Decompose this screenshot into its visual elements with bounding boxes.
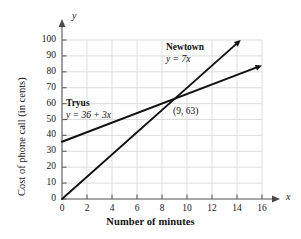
- y-tick-label: 90: [22, 51, 56, 61]
- x-tick-label: 4: [100, 204, 124, 214]
- x-axis-symbol: x: [286, 191, 290, 202]
- intersection-point-label: (9, 63): [173, 106, 198, 116]
- series-equation-newtown: y = 7x: [166, 54, 204, 66]
- y-tick-label: 10: [22, 178, 56, 188]
- x-tick-label: 0: [50, 204, 74, 214]
- x-tick-label: 14: [225, 204, 249, 214]
- series-annotation-newtown: Newtown y = 7x: [166, 42, 204, 66]
- x-tick-label: 8: [150, 204, 174, 214]
- y-axis-title: Cost of phone call (in cents): [16, 77, 27, 196]
- y-axis-arrowhead: [59, 19, 66, 27]
- series-arrowhead-tryus: [255, 65, 262, 71]
- line-chart-figure: 01020304050607080901000246810121416 y x …: [0, 0, 301, 239]
- y-tick-label: 80: [22, 67, 56, 77]
- x-tick-label: 12: [200, 204, 224, 214]
- x-tick-label: 2: [75, 204, 99, 214]
- x-tick-label: 16: [250, 204, 274, 214]
- y-axis-symbol: y: [72, 10, 76, 21]
- y-tick-label: 0: [22, 194, 56, 204]
- y-tick-label: 50: [22, 115, 56, 125]
- x-axis-arrowhead: [272, 196, 280, 203]
- y-tick-label: 20: [22, 162, 56, 172]
- series-annotation-tryus: Tryus y = 36 + 3x: [66, 98, 111, 122]
- y-tick-label: 60: [22, 99, 56, 109]
- y-tick-label: 40: [22, 130, 56, 140]
- series-label-tryus: Tryus: [66, 98, 111, 110]
- y-tick-label: 70: [22, 83, 56, 93]
- series-equation-tryus: y = 36 + 3x: [66, 110, 111, 122]
- series-label-newtown: Newtown: [166, 42, 204, 54]
- y-tick-label: 30: [22, 146, 56, 156]
- x-tick-label: 6: [125, 204, 149, 214]
- y-tick-label: 100: [22, 35, 56, 45]
- x-axis-title: Number of minutes: [0, 216, 301, 227]
- x-tick-label: 10: [175, 204, 199, 214]
